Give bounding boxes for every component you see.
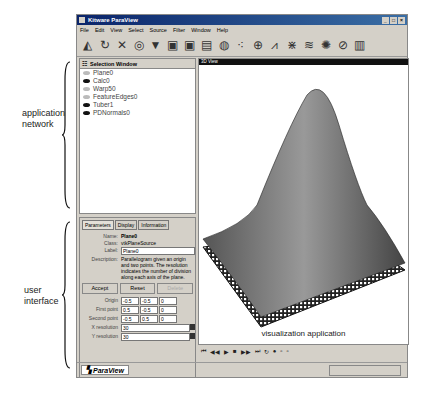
slice-icon[interactable]: ✺ [318,38,333,53]
prev-frame-icon[interactable]: ◀◀ [210,348,220,355]
menu-select[interactable]: Select [128,27,143,33]
point1-x[interactable]: 0.5 [121,306,139,314]
spin-arrows-icon[interactable] [190,324,195,330]
plot-icon[interactable]: ⩘ [267,38,282,53]
source-name: Plane0 [121,233,195,239]
minimize-button[interactable]: _ [382,17,389,24]
paraview-window: Kitware ParaView _ □ × File Edit View Se… [76,14,408,378]
app-logo-icon: ▚ [86,366,91,374]
sphere-source-icon[interactable]: ◎ [131,38,146,53]
threshold-icon[interactable]: ▤ [199,38,214,53]
extract-icon[interactable]: ▥ [352,38,367,53]
menu-bar: File Edit View Select Source Filter Wind… [77,25,407,34]
streamline-icon[interactable]: ≋ [301,38,316,53]
eye-icon[interactable] [83,111,90,115]
cut-icon[interactable]: ⊘ [335,38,350,53]
eye-icon[interactable] [83,79,90,83]
point2-y[interactable]: 0.5 [140,315,158,323]
pipeline-item[interactable]: Calc0 [80,77,195,85]
point1-y[interactable]: -0.5 [140,306,158,314]
rotate-icon[interactable]: ↻ [97,38,112,53]
label-input[interactable]: Plane0 [121,247,195,255]
x-resolution-spinner[interactable]: 30 [121,324,195,332]
eye-icon[interactable] [83,103,90,107]
properties-panel: Parameters Display Information Name:Plan… [79,217,196,378]
origin-x[interactable]: -0.5 [121,297,139,305]
pipeline-item[interactable]: Plane0 [80,69,195,77]
selection-window: ☷ Selection Window Plane0 Calc0 Warp50 F… [79,58,196,214]
view-caption: visualization application [199,329,408,338]
pick-icon[interactable]: ✕ [114,38,129,53]
maximize-button[interactable]: □ [390,17,397,24]
tree-icon[interactable]: ☷ [82,61,87,67]
gaussian-surface-render [199,65,408,335]
tab-parameters[interactable]: Parameters [82,220,114,230]
title-bar: Kitware ParaView _ □ × [77,15,407,25]
reset-camera-icon[interactable]: ◭ [80,38,95,53]
contour-icon[interactable]: ◍ [216,38,231,53]
y-resolution-spinner[interactable]: 30 [121,333,195,341]
reset-button[interactable]: Reset [120,283,156,294]
box-icon[interactable]: ▣ [182,38,197,53]
options-icon[interactable]: ▫ [280,348,282,354]
status-bar: ▚ParaView [77,362,407,377]
play-icon[interactable]: ▶ [224,348,229,355]
accept-button[interactable]: Accept [82,283,118,294]
eye-icon[interactable] [83,87,90,91]
delete-button[interactable]: Delete [157,283,193,294]
tab-information[interactable]: Information [138,220,169,230]
menu-source[interactable]: Source [149,27,166,33]
pipeline-item[interactable]: Warp50 [80,85,195,93]
pipeline-item[interactable]: Tuber1 [80,101,195,109]
pipeline-item[interactable]: PDNormals0 [80,109,195,117]
paraview-logo: ▚ParaView [81,365,129,375]
description-text: Parallelogram given an origin and two po… [121,256,195,280]
origin-y[interactable]: -0.5 [140,297,158,305]
menu-edit[interactable]: Edit [95,27,104,33]
pipeline-item[interactable]: FeatureEdges0 [80,93,195,101]
3d-view[interactable]: 3D View visualization application [198,58,409,345]
keyframe-icon[interactable]: ▫ [286,348,288,354]
progress-bar [329,365,401,376]
first-frame-icon[interactable]: ⏮ [201,348,206,355]
window-title: Kitware ParaView [88,17,138,23]
next-frame-icon[interactable]: ▶▶ [241,348,251,355]
menu-window[interactable]: Window [191,27,211,33]
annotation-network: applicationnetwork [22,108,65,130]
close-button[interactable]: × [398,17,405,24]
menu-filter[interactable]: Filter [173,27,185,33]
selection-window-header: ☷ Selection Window [80,59,195,69]
point2-x[interactable]: -0.5 [121,315,139,323]
point1-z[interactable]: 0 [159,306,177,314]
glyph-icon[interactable]: ⁖ [233,38,248,53]
menu-file[interactable]: File [80,27,89,33]
cube-icon[interactable]: ▣ [165,38,180,53]
loop-icon[interactable]: ↻ [264,348,269,355]
origin-z[interactable]: 0 [159,297,177,305]
tab-display[interactable]: Display [115,220,137,230]
point2-z[interactable]: 0 [159,315,177,323]
brace-network [62,60,72,210]
spin-arrows-icon[interactable] [190,333,195,339]
clip-icon[interactable]: ⊕ [250,38,265,53]
source-class: vtkPlaneSource [121,240,195,246]
annotation-ui: userinterface [24,285,59,307]
eye-icon[interactable] [83,71,90,75]
probe-icon[interactable]: ⋇ [284,38,299,53]
last-frame-icon[interactable]: ⏭ [255,348,260,355]
eye-icon[interactable] [83,95,90,99]
brace-ui [62,220,72,370]
menu-help[interactable]: Help [217,27,228,33]
menu-view[interactable]: View [110,27,122,33]
stop-icon[interactable]: ■ [233,348,237,354]
app-icon [79,17,85,23]
toolbar: ◭ ↻ ✕ ◎ ▼ ▣ ▣ ▤ ◍ ⁖ ⊕ ⩘ ⋇ ≋ ✺ ⊘ ▥ [77,34,407,57]
animation-toolbar: ⏮ ◀◀ ▶ ■ ▶▶ ⏭ ↻ ● ▫ ▫ [198,345,410,357]
record-icon[interactable]: ● [273,348,277,354]
cone-source-icon[interactable]: ▼ [148,38,163,53]
